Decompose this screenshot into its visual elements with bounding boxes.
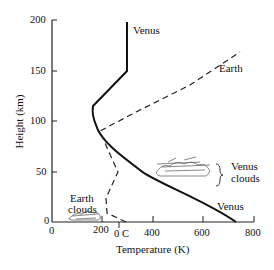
x-tick-200: 200 — [93, 225, 109, 236]
y-axis-label: Height (km) — [14, 87, 25, 157]
temperature-height-chart: 200 150 100 50 0 0 200 0 C 400 600 800 T… — [0, 0, 274, 270]
x-tick-0c: 0 C — [114, 229, 129, 240]
venus-bottom-label: Venus — [217, 201, 244, 212]
x-axis-label: Temperature (K) — [116, 244, 189, 255]
y-tick-200: 200 — [30, 15, 46, 26]
earth-clouds-label-2: clouds — [68, 204, 97, 215]
x-tick-0: 0 — [49, 226, 54, 237]
venus-clouds-label-1: Venus — [231, 161, 258, 172]
chart-plot — [0, 0, 274, 270]
y-ticks — [52, 20, 57, 172]
venus-clouds-icon — [156, 157, 210, 176]
y-tick-150: 150 — [30, 66, 46, 77]
venus-clouds-brace — [216, 164, 223, 186]
venus-clouds-label-2: clouds — [231, 173, 260, 184]
x-tick-800: 800 — [245, 228, 261, 239]
y-tick-50: 50 — [36, 167, 47, 178]
y-tick-100: 100 — [30, 116, 46, 127]
x-tick-400: 400 — [144, 228, 160, 239]
venus-top-label: Venus — [133, 25, 160, 36]
earth-label: Earth — [219, 63, 243, 74]
venus-curve — [93, 22, 236, 222]
x-tick-600: 600 — [194, 228, 210, 239]
